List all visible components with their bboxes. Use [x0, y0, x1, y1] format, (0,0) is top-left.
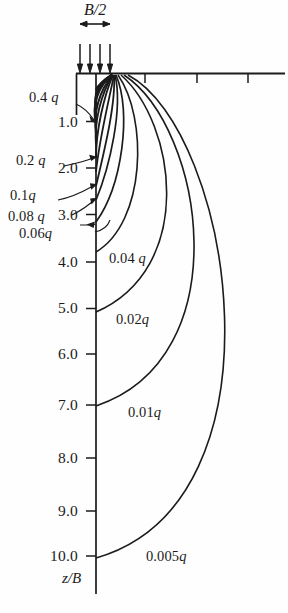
- isobar-label-0.4q-unit: q: [51, 89, 58, 105]
- isobar-label-0.02q-value: 0.02: [116, 311, 142, 327]
- depth-tick-label-7: 7.0: [28, 397, 78, 413]
- isobar-label-0.1q-unit: q: [28, 187, 35, 203]
- isobar-contours: [95, 75, 225, 558]
- isobar-label-0.1q: 0.1q: [10, 188, 36, 203]
- depth-axis-label: z/B: [62, 571, 81, 586]
- isobar-label-0.02q: 0.02q: [116, 312, 149, 327]
- isobar-label-0.08q-unit: q: [38, 208, 45, 224]
- depth-tick-label-5: 5.0: [28, 300, 78, 316]
- isobar-label-0.06q-value: 0.06: [19, 225, 45, 241]
- depth-tick-label-1: 1.0: [28, 114, 78, 130]
- isobar-label-0.4q-value: 0.4: [29, 89, 47, 105]
- isobar-label-0.2q: 0.2 q: [16, 153, 46, 168]
- footing-half-width-label: B/2: [84, 2, 106, 18]
- isobar-label-0.04q-value: 0.04: [109, 250, 135, 266]
- stress-isobar-figure: B/2 1.0 2.0 3.0 4.0 5.0 6.0 7.0 8.0 9.0 …: [0, 0, 288, 613]
- depth-tick-label-8: 8.0: [28, 450, 78, 466]
- isobar-label-0.08q-value: 0.08: [8, 208, 34, 224]
- isobar-label-0.2q-value: 0.2: [16, 152, 34, 168]
- isobar-label-0.06q: 0.06q: [19, 226, 52, 241]
- depth-tick-label-9: 9.0: [28, 503, 78, 519]
- isobar-label-0.005q-unit: q: [179, 548, 186, 564]
- isobar-label-0.4q: 0.4 q: [29, 90, 59, 105]
- isobar-label-0.01q-value: 0.01: [128, 404, 154, 420]
- width-dimension-arrow: [80, 21, 110, 27]
- depth-tick-label-6: 6.0: [28, 346, 78, 362]
- depth-axis: [86, 73, 96, 594]
- isobar-label-0.01q-unit: q: [154, 404, 161, 420]
- load-arrows: [77, 44, 112, 73]
- isobar-label-0.04q-unit: q: [139, 250, 146, 266]
- depth-tick-label-4: 4.0: [28, 254, 78, 270]
- depth-tick-label-10: 10.0: [22, 548, 78, 564]
- isobar-label-0.1q-value: 0.1: [10, 187, 28, 203]
- isobar-label-0.02q-unit: q: [142, 311, 149, 327]
- isobar-label-0.01q: 0.01q: [128, 405, 161, 420]
- isobar-label-0.2q-unit: q: [38, 152, 45, 168]
- isobar-label-0.005q: 0.005q: [146, 549, 186, 564]
- isobar-label-0.06q-unit: q: [45, 225, 52, 241]
- isobar-label-0.005q-value: 0.005: [146, 548, 179, 564]
- isobar-label-0.08q: 0.08 q: [8, 209, 45, 224]
- isobar-label-0.04q: 0.04 q: [109, 251, 146, 266]
